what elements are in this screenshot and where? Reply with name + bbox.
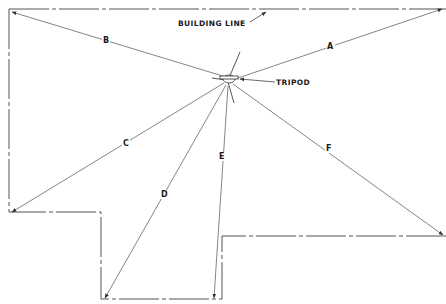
label-d: D	[160, 190, 169, 199]
building-outline	[9, 9, 446, 299]
tripod-label: TRIPOD	[276, 78, 310, 87]
tripod-icon	[212, 52, 240, 103]
measurement-lines	[12, 9, 443, 298]
tripod-callout-arrow	[240, 79, 275, 82]
label-b: B	[102, 36, 110, 45]
label-c: C	[122, 139, 130, 148]
building-line-callout-arrow	[250, 12, 266, 22]
line-a	[232, 9, 442, 80]
line-c	[12, 83, 224, 212]
label-f: F	[325, 144, 333, 153]
building-line-label: BUILDING LINE	[178, 19, 246, 28]
line-f	[233, 84, 443, 235]
label-a: A	[326, 42, 335, 51]
label-e: E	[218, 152, 226, 161]
line-e	[214, 86, 228, 298]
